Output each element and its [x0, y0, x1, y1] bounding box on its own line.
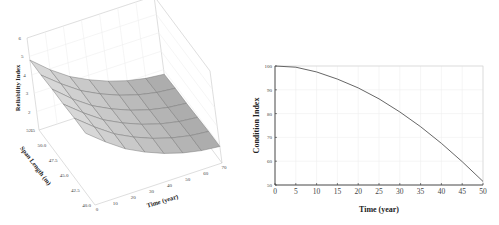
time-axis: 010203040506070: [96, 165, 227, 212]
reliability-surface-chart: 12345640.042.545.047.550.052.50102030405…: [0, 0, 250, 225]
gridlines: [275, 66, 483, 185]
time-tick-label: 40: [167, 183, 173, 188]
x-tick-label: 35: [417, 187, 425, 196]
time-tick-label: 70: [222, 165, 228, 170]
x-tick-label: 0: [273, 187, 277, 196]
span-tick-label: 42.5: [71, 188, 80, 193]
y-axis-title: Condition Index: [252, 98, 261, 154]
span-tick-label: 50.0: [37, 143, 46, 148]
x-axis-title: Time (year): [359, 205, 399, 214]
z-tick-label: 3: [26, 91, 29, 96]
y-tick-label: 60: [267, 159, 273, 164]
time-tick-label: 50: [185, 177, 191, 182]
line-plot: 051015202530354045505060708090100Time (y…: [250, 0, 499, 225]
x-tick-label: 45: [458, 187, 466, 196]
time-tick-label: 10: [113, 201, 119, 206]
span-tick-label: 40.0: [82, 203, 91, 208]
time-tick-label: 30: [149, 189, 155, 194]
z-tick-label: 5: [21, 54, 24, 59]
y-tick-label: 80: [267, 112, 273, 117]
x-tick-label: 5: [294, 187, 298, 196]
y-tick-label: 100: [265, 64, 273, 69]
x-tick-label: 15: [334, 187, 342, 196]
x-tick-label: 40: [438, 187, 446, 196]
z-axis-title: Reliability Index: [14, 64, 21, 111]
z-tick-label: 4: [23, 73, 26, 78]
z-tick-label: 2: [28, 110, 31, 115]
time-tick-label: 60: [203, 171, 209, 176]
x-tick-label: 30: [396, 187, 404, 196]
x-tick-label: 25: [375, 187, 383, 196]
span-axis-title: Span Length (m): [18, 145, 53, 187]
time-tick-label: 0: [96, 207, 99, 212]
time-axis-title: Time (year): [146, 193, 179, 210]
span-tick-label: 47.5: [49, 158, 58, 163]
surface-plot: 12345640.042.545.047.550.052.50102030405…: [0, 0, 250, 225]
y-tick-label: 70: [267, 135, 273, 140]
y-tick-label: 90: [267, 88, 273, 93]
span-tick-label: 45.0: [60, 173, 69, 178]
x-tick-label: 20: [354, 187, 362, 196]
span-tick-label: 52.5: [26, 128, 35, 133]
x-tick-label: 10: [313, 187, 321, 196]
time-tick-label: 20: [131, 195, 137, 200]
condition-index-chart: 051015202530354045505060708090100Time (y…: [250, 0, 499, 225]
y-tick-label: 50: [267, 183, 273, 188]
x-tick-label: 50: [479, 187, 487, 196]
z-tick-label: 6: [19, 36, 22, 41]
